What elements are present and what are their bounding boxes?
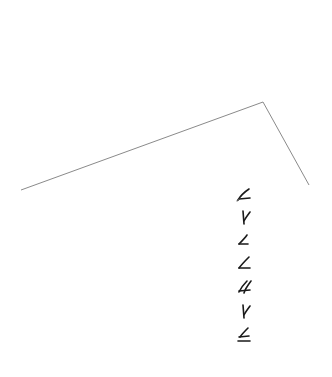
glyph-1-angle-with-hook (237, 189, 250, 201)
drawing-canvas (0, 0, 332, 377)
glyph-6-y-fork (243, 305, 250, 318)
angle-outline (21, 102, 309, 190)
glyph-4-angle (239, 257, 250, 268)
glyph-3-small-angle (239, 235, 248, 244)
glyph-column (237, 189, 251, 341)
glyph-5-double-angle (239, 281, 251, 293)
glyph-7-angle-with-underline (238, 328, 250, 341)
glyph-2-y-fork (243, 211, 250, 224)
